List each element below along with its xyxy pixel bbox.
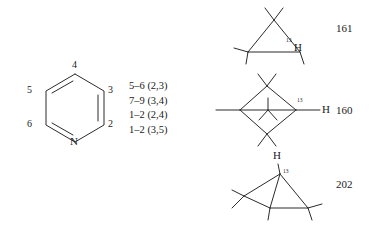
figure-canvas: N 4 3 2 6 5 5–6 (2,3) 7–9 (3,4) 1–2 (2,4… (0, 0, 372, 226)
structure-161-isotope-label: 13 (286, 38, 292, 44)
structure-202-isotope-label: 13 (283, 169, 289, 175)
structure-161-skeleton (238, 12, 316, 57)
structure-160-skeleton (222, 80, 317, 140)
bc2-left-methyl-up (232, 190, 244, 196)
bc-center-methyl-right (268, 110, 277, 120)
bc-bond-left-bottom (240, 110, 267, 134)
coupling-row: 1–2 (2,4) (129, 108, 168, 123)
coupling-constant-list: 5–6 (2,3) 7–9 (3,4) 1–2 (2,4) 1–2 (3,5) (129, 79, 168, 137)
bc-top-methyl-left (258, 74, 267, 86)
structure-161-hydrogen-label: H (294, 42, 302, 53)
coupling-row: 1–2 (3,5) (129, 123, 168, 138)
bc2-bond-apex-right (280, 174, 308, 208)
bc-bottom-methyl-left (258, 134, 267, 146)
cp-methyl-apex-right (274, 8, 283, 20)
structure-202-hydrogen-label: H (273, 150, 281, 161)
ring-bond-skeleton (46, 74, 104, 142)
coupling-row: 7–9 (3,4) (129, 94, 168, 109)
double-bond-c6-n1 (52, 123, 73, 135)
structure-160-isotope-label: 13 (297, 98, 303, 104)
cp-methyl-apex-left (265, 8, 274, 20)
double-bond-c4-c5 (52, 81, 73, 93)
structure-160-number: 160 (336, 104, 353, 116)
bc2-bond-to-h (278, 164, 280, 174)
ring-position-4: 4 (72, 60, 77, 70)
coupling-row: 5–6 (2,3) (129, 79, 168, 94)
bc-bond-left-top (240, 86, 267, 110)
bc2-mid-methyl-down (268, 208, 270, 220)
ring-position-5: 5 (27, 85, 32, 95)
bc2-right-methyl-down (308, 208, 312, 220)
structure-161-number: 161 (336, 22, 353, 34)
cp-bond-apex-left (248, 20, 274, 52)
bc2-bond-left-mid (244, 196, 270, 208)
bc-bond-top-right (267, 86, 296, 110)
cp-methyl-right-down (300, 52, 304, 64)
bc-center-methyl-left (259, 110, 268, 120)
ring-position-3: 3 (108, 85, 113, 95)
structure-202-number: 202 (336, 178, 353, 190)
ring-position-2: 2 (108, 119, 113, 129)
bc-top-methyl-right (267, 74, 276, 86)
bc2-left-methyl-down (232, 196, 244, 208)
structure-202-skeleton (230, 168, 325, 218)
cp-methyl-left-out (234, 48, 248, 52)
structure-160-hydrogen-label: H (322, 104, 330, 115)
ring-position-6: 6 (27, 119, 32, 129)
bc-bottom-methyl-right (267, 134, 276, 146)
cp-methyl-left-down (246, 52, 248, 64)
pyridine-nitrogen-label: N (70, 136, 78, 147)
bc2-right-methyl-out (308, 204, 322, 208)
